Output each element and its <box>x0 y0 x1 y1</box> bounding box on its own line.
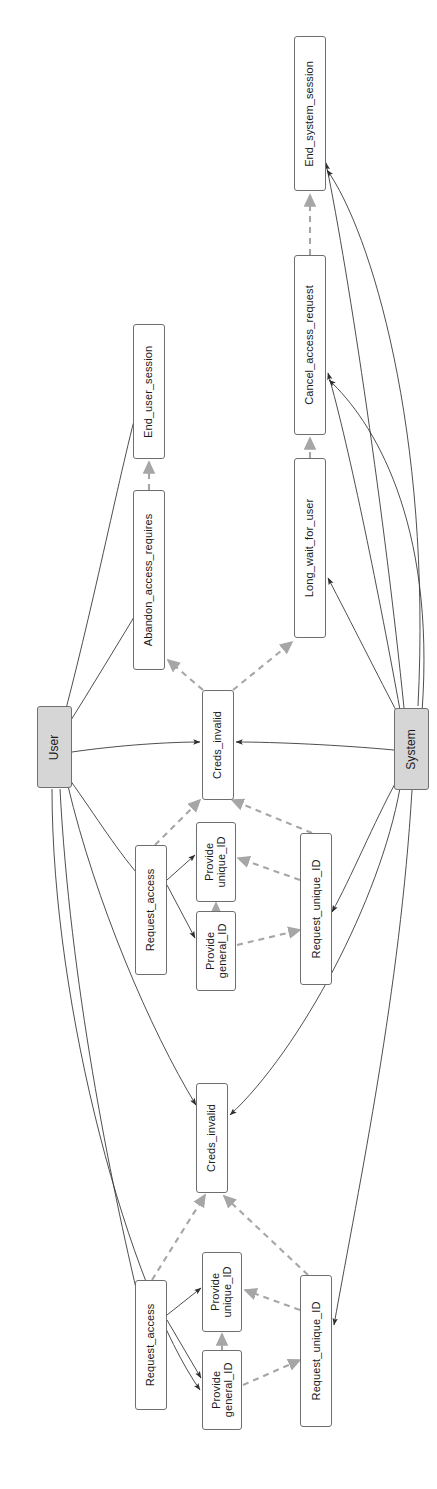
node-label-request_access_1: Request_access <box>145 869 157 952</box>
edge-request_unique_id_1-to-creds_invalid_1 <box>232 800 312 833</box>
node-provide_general_id_2[interactable]: Provide general_ID <box>202 1350 242 1430</box>
node-cancel_access_request[interactable]: Cancel_access_request <box>294 255 326 435</box>
diagram-canvas: End_system_sessionCancel_access_requestE… <box>0 0 437 1489</box>
edge-user-to-creds_invalid_2 <box>68 786 196 1105</box>
node-label-provide_unique_id_2: Provide unique_ID <box>210 1266 234 1317</box>
edge-user-to-request_access_2 <box>60 789 140 1305</box>
edge-creds_invalid_1-to-abandon_access_requires <box>168 660 203 690</box>
node-user[interactable]: User <box>37 706 72 788</box>
node-abandon_access_requires[interactable]: Abandon_access_requires <box>133 490 165 670</box>
edge-request_unique_id_2-to-provide_unique_id_2 <box>245 1290 300 1310</box>
node-label-end_user_session: End_user_session <box>143 345 155 437</box>
node-label-request_unique_id_2: Request_unique_ID <box>310 1302 322 1401</box>
node-creds_invalid_2[interactable]: Creds_invalid <box>196 1083 228 1193</box>
node-label-long_wait_for_user: Long_wait_for_user <box>304 499 316 597</box>
node-label-provide_unique_id_1: Provide unique_ID <box>204 836 228 887</box>
edge-user-to-provide_general_id_2 <box>52 789 200 1390</box>
edge-system-to-request_unique_id_2 <box>334 790 412 1325</box>
node-label-system: System <box>405 729 418 770</box>
edge-creds_invalid_1-to-long_wait_for_user <box>233 642 292 690</box>
node-creds_invalid_1[interactable]: Creds_invalid <box>202 690 234 800</box>
node-request_access_1[interactable]: Request_access <box>135 845 167 975</box>
node-label-user: User <box>48 734 61 760</box>
node-label-cancel_access_request: Cancel_access_request <box>304 285 316 405</box>
edge-request_access_1-to-provide_general_id_1 <box>167 885 195 938</box>
edge-system-to-request_unique_id_1 <box>332 782 396 912</box>
edge-system-to-cancel_access_request <box>329 380 424 712</box>
edge-request_access_2-to-provide_general_id_2 <box>167 1320 201 1378</box>
node-end_user_session[interactable]: End_user_session <box>133 324 165 459</box>
node-label-end_system_session: End_system_session <box>304 61 316 167</box>
node-request_access_2[interactable]: Request_access <box>135 1280 167 1410</box>
node-label-abandon_access_requires: Abandon_access_requires <box>143 514 155 647</box>
node-provide_unique_id_1[interactable]: Provide unique_ID <box>196 822 236 902</box>
node-label-request_unique_id_1: Request_unique_ID <box>310 860 322 959</box>
node-label-request_access_2: Request_access <box>145 1304 157 1387</box>
edge-system-to-long_wait_for_user <box>328 578 398 714</box>
node-long_wait_for_user[interactable]: Long_wait_for_user <box>294 458 326 638</box>
edge-user-to-end_user_session <box>62 398 140 724</box>
edge-system-to-creds_invalid_1 <box>236 742 394 750</box>
edge-request_access_1-to-creds_invalid_1 <box>155 800 200 845</box>
node-label-provide_general_id_2: Provide general_ID <box>210 1363 234 1418</box>
node-end_system_session[interactable]: End_system_session <box>294 36 326 191</box>
node-request_unique_id_1[interactable]: Request_unique_ID <box>300 833 332 985</box>
node-label-provide_general_id_1: Provide general_ID <box>204 924 228 979</box>
node-label-creds_invalid_2: Creds_invalid <box>206 1104 218 1172</box>
edge-user-to-creds_invalid_1 <box>72 742 200 752</box>
edge-user-to-abandon_access_requires <box>66 604 142 728</box>
node-provide_general_id_1[interactable]: Provide general_ID <box>196 911 236 991</box>
edge-request_unique_id_1-to-provide_unique_id_1 <box>238 858 300 880</box>
edge-user-to-request_access_1 <box>70 780 143 880</box>
edge-request_access_1-to-provide_unique_id_1 <box>167 855 195 880</box>
edge-system-to-cancel_access_request <box>328 373 400 710</box>
node-label-creds_invalid_1: Creds_invalid <box>212 711 224 779</box>
node-system[interactable]: System <box>394 708 429 790</box>
node-request_unique_id_2[interactable]: Request_unique_ID <box>300 1275 332 1427</box>
edge-request_access_2-to-creds_invalid_2 <box>152 1195 205 1280</box>
node-provide_unique_id_2[interactable]: Provide unique_ID <box>202 1252 242 1332</box>
edge-provide_general_id_1-to-request_unique_id_1 <box>237 930 300 945</box>
edge-system-to-end_system_session <box>326 163 404 708</box>
edge-provide_general_id_2-to-request_unique_id_2 <box>243 1360 300 1385</box>
edge-request_access_2-to-provide_unique_id_2 <box>167 1288 201 1315</box>
